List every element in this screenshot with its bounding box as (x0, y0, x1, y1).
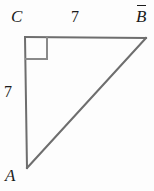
side-length-label-cb: 7 (71, 9, 79, 25)
right-angle-marker-icon (25, 37, 47, 59)
geometry-diagram: C B A 7 7 (0, 0, 154, 191)
vertex-label-a: A (5, 167, 15, 184)
vertex-label-b: B (136, 8, 146, 25)
segment-cb (25, 37, 146, 38)
vertex-label-c: C (11, 8, 22, 25)
segment-ca (25, 37, 27, 168)
segment-ab (27, 38, 146, 168)
side-length-label-ca: 7 (4, 84, 12, 100)
vertex-label-b-overbar-icon (137, 5, 146, 6)
triangle-figure (0, 0, 154, 191)
